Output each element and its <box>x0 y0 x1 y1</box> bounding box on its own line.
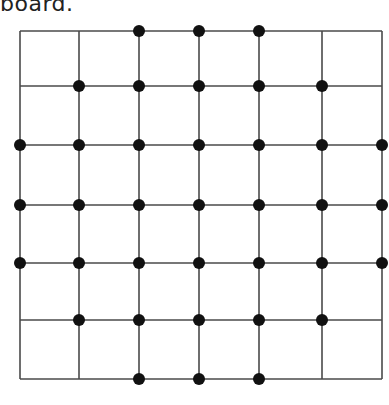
grid-dot <box>376 139 388 151</box>
grid-dot <box>73 80 85 92</box>
grid-dot <box>193 25 205 37</box>
grid-dot <box>193 80 205 92</box>
grid-dot <box>133 139 145 151</box>
grid-dot <box>133 257 145 269</box>
grid-dot <box>193 257 205 269</box>
grid-dot <box>133 25 145 37</box>
grid-dot <box>14 139 26 151</box>
grid-dot <box>253 80 265 92</box>
grid-dot <box>253 199 265 211</box>
grid-dot <box>133 373 145 385</box>
grid-dot <box>316 257 328 269</box>
grid-dot <box>376 199 388 211</box>
grid-dot <box>193 373 205 385</box>
grid-dot <box>14 199 26 211</box>
grid-dot <box>73 199 85 211</box>
grid-dot <box>376 257 388 269</box>
grid-dot <box>253 25 265 37</box>
grid-dot <box>253 257 265 269</box>
grid-dot <box>193 139 205 151</box>
grid-dot <box>133 80 145 92</box>
grid-dot <box>73 139 85 151</box>
grid-dot <box>133 314 145 326</box>
grid-dot <box>14 257 26 269</box>
grid-dot <box>316 199 328 211</box>
grid-dot <box>253 139 265 151</box>
grid-dot <box>193 199 205 211</box>
grid-dot <box>193 314 205 326</box>
grid-dot <box>253 373 265 385</box>
grid-dot <box>73 257 85 269</box>
grid-dot <box>316 139 328 151</box>
grid-dot <box>316 80 328 92</box>
grid-board <box>0 0 389 405</box>
grid-dot <box>133 199 145 211</box>
grid-dot <box>316 314 328 326</box>
grid-dot <box>253 314 265 326</box>
grid-dot <box>73 314 85 326</box>
